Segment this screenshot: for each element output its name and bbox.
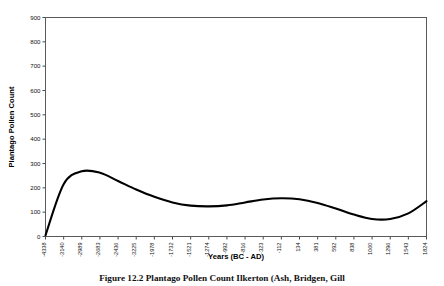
pollen-count-line [46, 170, 427, 235]
x-axis-tick-label: 592 [331, 243, 337, 252]
x-axis-tick-label: 1060 [367, 243, 373, 255]
figure-container: 0100200300400500600700800900 -4338-3140-… [0, 0, 444, 286]
y-axis-tick-label: 500 [30, 111, 41, 118]
x-axis-tick-label: -1978 [149, 243, 155, 257]
x-axis-tick-label: 381 [313, 243, 319, 252]
x-axis-tick-label: 838 [349, 243, 355, 252]
y-axis-tick-label: 700 [30, 62, 41, 69]
y-axis-tick-label: 200 [30, 184, 41, 191]
x-axis-tick-label: -3140 [59, 243, 65, 257]
x-axis-tick-label: -3225 [131, 243, 137, 257]
y-axis-tick-label: 0 [37, 233, 41, 240]
x-axis-tick-label: -2436 [113, 243, 119, 257]
y-axis-tick-label: 900 [30, 14, 41, 21]
x-axis-tick-label: -2683 [95, 243, 101, 257]
x-axis-tick-label: -2989 [77, 243, 83, 257]
chart-canvas: 0100200300400500600700800900 -4338-3140-… [0, 0, 444, 268]
x-axis-tick-label: -1732 [168, 243, 174, 257]
y-axis-tick-label: 400 [30, 135, 41, 142]
x-axis-title: Years (BC - AD) [208, 252, 264, 261]
y-axis-tick-label: 100 [30, 208, 41, 215]
figure-caption: Figure 12.2 Plantago Pollen Count Ilkert… [0, 272, 444, 284]
pollen-line-chart: 0100200300400500600700800900 -4338-3140-… [0, 0, 444, 268]
x-axis-tick-label: -4338 [41, 243, 47, 257]
y-axis-tick-label: 300 [30, 160, 41, 167]
y-axis-tick-labels: 0100200300400500600700800900 [30, 14, 41, 240]
x-axis-tick-label: 1296 [385, 243, 391, 255]
y-axis-tick-label: 600 [30, 87, 41, 94]
y-axis-title: Plantago Pollen Count [7, 86, 16, 167]
x-axis-tick-label: 1824 [422, 243, 428, 255]
x-axis-tick-label: 1543 [403, 243, 409, 255]
x-axis-tick-label: -112 [276, 243, 282, 254]
x-axis-tick-label: -1521 [186, 243, 192, 257]
x-axis-tick-label: 134 [295, 243, 301, 252]
y-axis-tick-label: 800 [30, 38, 41, 45]
